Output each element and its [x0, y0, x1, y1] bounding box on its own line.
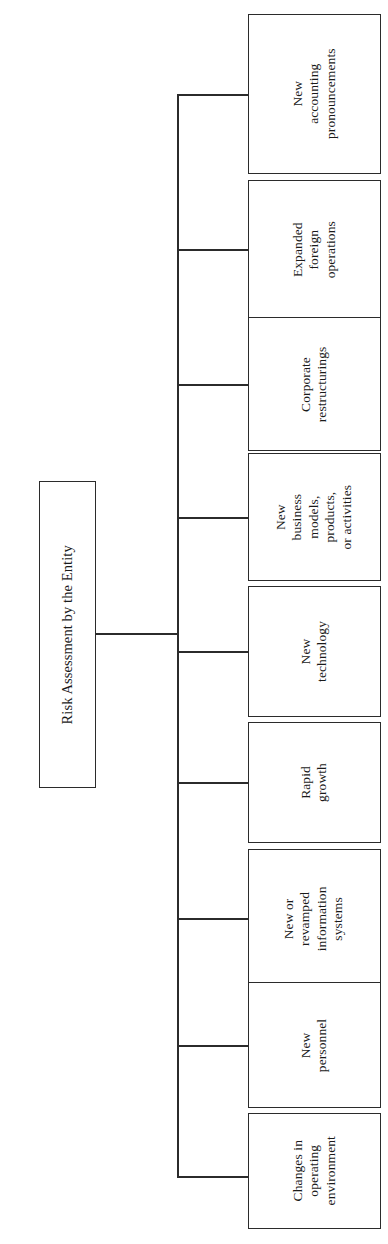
node-rapid-growth[interactable]: Rapid growth: [248, 722, 381, 843]
node-label-new-accounting-pronouncements: New accounting pronouncements: [290, 49, 339, 140]
node-new-personnel[interactable]: New personnel: [248, 982, 381, 1108]
node-new-technology[interactable]: New technology: [248, 586, 381, 717]
connector-branch-5: [177, 651, 250, 653]
node-label-new-business-models: New business models, products, or activi…: [273, 485, 355, 550]
node-label-changes-in-operating-environment: Changes in operating environment: [290, 1136, 339, 1205]
connector-branch-3: [177, 384, 250, 386]
connector-branch-8: [177, 1045, 250, 1047]
connector-branch-6: [177, 782, 250, 784]
node-label-expanded-foreign-operations: Expanded foreign operations: [290, 221, 339, 278]
node-risk-assessment-entity[interactable]: Risk Assessment by the Entity: [39, 481, 96, 788]
connector-branch-7: [177, 918, 250, 920]
connector-branch-4: [177, 517, 250, 519]
node-label-risk-assessment-entity: Risk Assessment by the Entity: [59, 545, 77, 724]
node-new-accounting-pronouncements[interactable]: New accounting pronouncements: [248, 14, 381, 174]
connector-branch-2: [177, 249, 250, 251]
node-label-corporate-restructurings: Corporate restructurings: [298, 346, 331, 422]
node-new-business-models[interactable]: New business models, products, or activi…: [248, 453, 381, 581]
connector-trunk-vertical: [177, 94, 179, 1176]
node-corporate-restructurings[interactable]: Corporate restructurings: [248, 317, 381, 451]
node-label-new-personnel: New personnel: [298, 1018, 331, 1071]
connector-branch-9: [177, 1176, 250, 1178]
connector-root-to-trunk: [95, 633, 179, 635]
node-expanded-foreign-operations[interactable]: Expanded foreign operations: [248, 180, 381, 319]
risk-assessment-tree-diagram: Risk Assessment by the Entity New accoun…: [0, 0, 388, 1244]
node-label-new-technology: New technology: [298, 621, 331, 682]
connector-branch-1: [177, 94, 250, 96]
node-label-new-revamped-information-systems: New or revamped information systems: [282, 886, 348, 951]
node-changes-in-operating-environment[interactable]: Changes in operating environment: [248, 1113, 381, 1229]
node-new-revamped-information-systems[interactable]: New or revamped information systems: [248, 849, 381, 988]
node-label-rapid-growth: Rapid growth: [298, 763, 331, 802]
